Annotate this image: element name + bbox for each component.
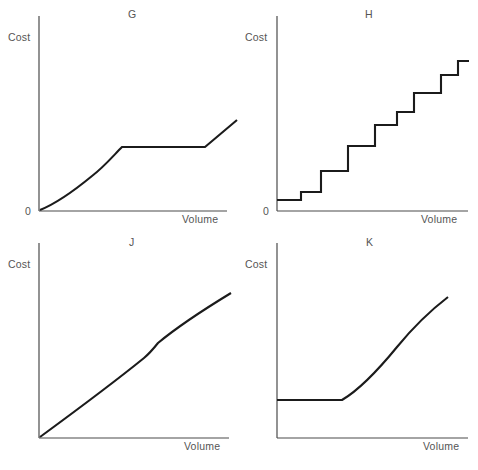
data-curve-g: [40, 120, 237, 210]
chart-title-j: J: [129, 236, 134, 248]
y-axis-label-g: Cost: [8, 31, 30, 43]
data-curve-k: [277, 297, 448, 400]
chart-svg-j: [0, 235, 239, 470]
x-axis-label-g: Volume: [182, 213, 218, 225]
chart-svg-k: [239, 235, 478, 470]
chart-svg-g: [0, 0, 239, 235]
figure-canvas: G Cost Volume 0 H Cost Volume 0 J Cost V…: [0, 0, 478, 470]
origin-label-h: 0: [263, 205, 269, 217]
chart-title-g: G: [128, 8, 136, 20]
chart-title-h: H: [365, 8, 373, 20]
y-axis-label-j: Cost: [8, 258, 30, 270]
chart-title-k: K: [366, 236, 373, 248]
x-axis-label-k: Volume: [423, 440, 459, 452]
chart-panel-j: J Cost Volume: [0, 235, 239, 470]
origin-label-g: 0: [25, 205, 31, 217]
chart-panel-h: H Cost Volume 0: [239, 0, 478, 235]
data-curve-j: [40, 293, 231, 437]
y-axis-label-k: Cost: [245, 258, 267, 270]
y-axis-label-h: Cost: [245, 31, 267, 43]
chart-panel-k: K Cost Volume: [239, 235, 478, 470]
chart-panel-g: G Cost Volume 0: [0, 0, 239, 235]
x-axis-label-j: Volume: [184, 440, 220, 452]
x-axis-label-h: Volume: [421, 213, 457, 225]
data-curve-h: [277, 61, 469, 200]
chart-svg-h: [239, 0, 478, 235]
